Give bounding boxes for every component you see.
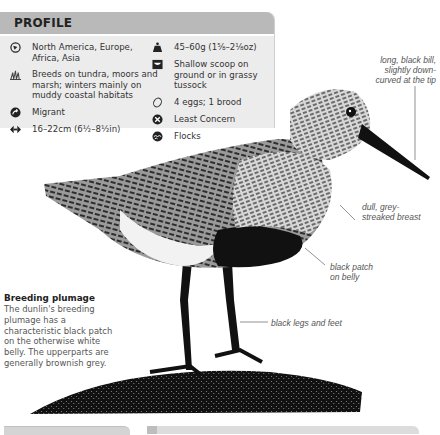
- profile-right-column: 45–60g (1⅝–2⅛oz) Shallow scoop on ground…: [150, 42, 274, 148]
- profile-title: PROFILE: [14, 16, 72, 30]
- profile-item-length: 16–22cm (6½–8½in): [8, 124, 158, 135]
- profile-item-eggs: 4 eggs; 1 brood: [150, 97, 274, 108]
- annotation-bill: long, black bill, slightly down-curved a…: [368, 55, 436, 85]
- profile-panel: PROFILE North America, Europe, Africa, A…: [0, 12, 275, 128]
- profile-header: PROFILE: [0, 12, 274, 36]
- conservation-status-icon: [150, 114, 164, 125]
- profile-item-nest: Shallow scoop on ground or in grassy tus…: [150, 59, 274, 91]
- profile-item-range: North America, Europe, Africa, Asia: [8, 42, 158, 63]
- egg-icon: [150, 97, 164, 108]
- next-panel-left-edge: [4, 426, 130, 435]
- profile-item-habitat: Breeds on tundra, moors and marsh; winte…: [8, 69, 158, 101]
- flock-icon: [150, 131, 164, 142]
- migration-arrow-icon: [8, 107, 22, 118]
- profile-item-status: Least Concern: [150, 114, 274, 125]
- profile-left-column: North America, Europe, Africa, Asia Bree…: [8, 42, 158, 141]
- breeding-plumage-caption: Breeding plumage The dunlin's breeding p…: [4, 293, 124, 369]
- globe-icon: [8, 42, 22, 53]
- habitat-grass-icon: [8, 69, 22, 80]
- nest-icon: [150, 59, 164, 70]
- profile-item-weight: 45–60g (1⅝–2⅛oz): [150, 42, 274, 53]
- caption-title: Breeding plumage: [4, 293, 124, 304]
- profile-item-migration: Migrant: [8, 107, 158, 118]
- annotation-belly: black patch on belly: [330, 262, 380, 282]
- weight-icon: [150, 42, 164, 53]
- annotation-breast: dull, grey-streaked breast: [362, 202, 422, 222]
- next-panel-right-edge: [147, 426, 419, 434]
- profile-item-social: Flocks: [150, 131, 274, 142]
- length-arrows-icon: [8, 124, 22, 135]
- annotation-legs: black legs and feet: [271, 318, 391, 328]
- panel-tab: [147, 426, 157, 434]
- caption-body: The dunlin's breeding plumage has a char…: [4, 304, 124, 369]
